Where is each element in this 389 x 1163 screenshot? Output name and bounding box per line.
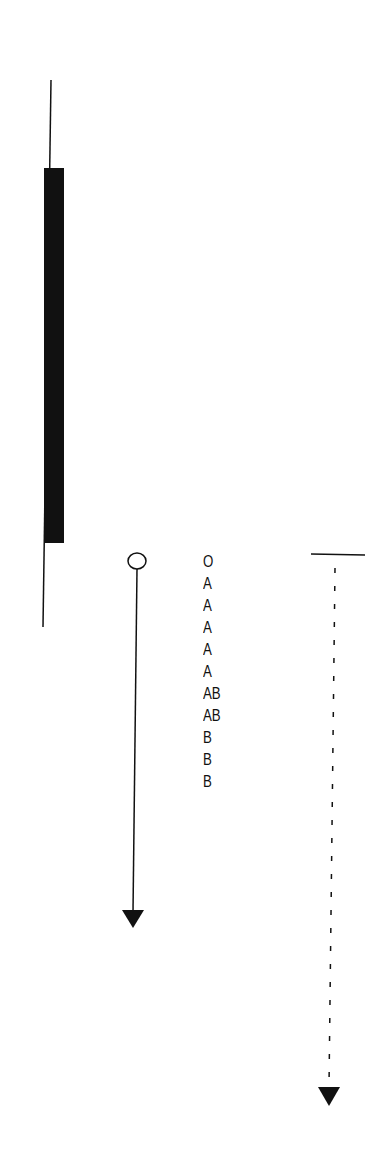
arrowhead-icon xyxy=(122,910,144,928)
solid-arrow xyxy=(122,553,146,928)
open-circle-icon xyxy=(128,553,146,569)
group-label: A xyxy=(203,641,212,658)
start-bar-icon xyxy=(311,554,365,555)
group-label: A xyxy=(203,575,212,592)
arrowhead-icon xyxy=(318,1087,340,1106)
group-label: B xyxy=(203,773,212,790)
group-label: O xyxy=(203,553,213,570)
group-label: A xyxy=(203,663,212,680)
group-label: B xyxy=(203,751,212,768)
left-range-marker xyxy=(43,80,64,627)
group-label: B xyxy=(203,729,212,746)
group-label: A xyxy=(203,619,212,636)
group-label: AB xyxy=(203,707,221,724)
group-label: A xyxy=(203,597,212,614)
dashed-arrow xyxy=(311,554,365,1106)
group-label: AB xyxy=(203,685,221,702)
diagram-canvas xyxy=(0,0,389,1163)
